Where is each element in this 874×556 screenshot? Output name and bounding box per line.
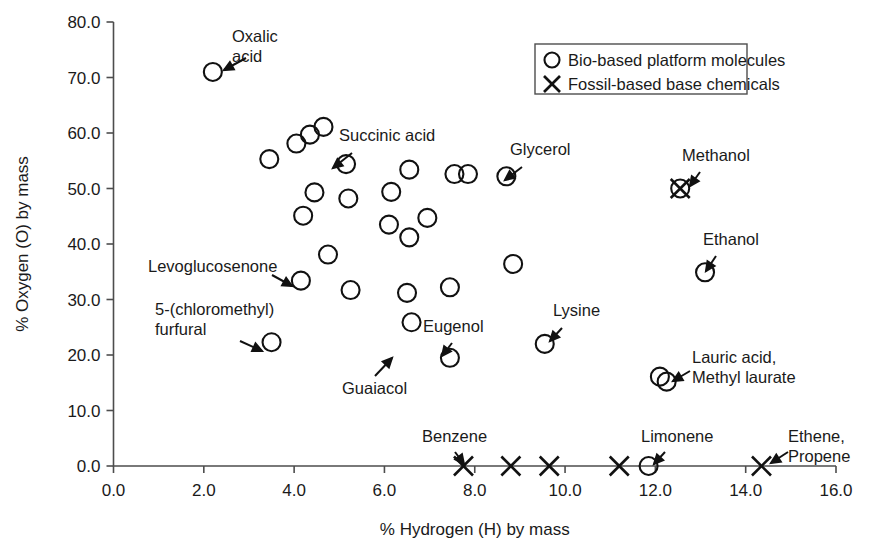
plot-canvas: 0.010.020.030.040.050.060.070.080.00.02.…	[0, 0, 874, 556]
annotation-label-succinic-acid: Succinic acid	[339, 126, 435, 144]
data-point-0-6	[294, 207, 312, 225]
annotation-line: Lauric acid,	[692, 348, 776, 366]
annotation-label-lauric-acid: Lauric acid,Methyl laurate	[692, 348, 796, 386]
annotation-label-lysine: Lysine	[553, 301, 600, 319]
annotation-label-methanol: Methanol	[682, 146, 750, 164]
x-tick-label-6: 12.0	[639, 481, 672, 500]
x-tick-label-5: 10.0	[549, 481, 582, 500]
annotation-line: Lysine	[553, 301, 600, 319]
legend-label-1: Fossil-based base chemicals	[568, 75, 780, 93]
annotation-label-benzene: Benzene	[422, 427, 487, 445]
data-point-0-1	[260, 150, 278, 168]
legend-item-1[interactable]: Fossil-based base chemicals	[544, 75, 780, 93]
annotation-oxalic-acid: Oxalicacid	[224, 27, 278, 70]
y-tick-label-0: 0.0	[77, 457, 101, 476]
annotation-label-levoglucosenone: Levoglucosenone	[148, 257, 277, 275]
annotation-label-chloromethyl-furfural: 5-(chloromethyl)furfural	[155, 300, 274, 338]
data-point-methanol	[671, 179, 690, 198]
data-point-0-15	[459, 165, 477, 183]
annotation-arrowhead-levoglucosenone	[282, 278, 292, 286]
data-point-0-8	[339, 189, 357, 207]
x-tick-label-1: 2.0	[192, 481, 216, 500]
x-tick-label-4: 8.0	[463, 481, 487, 500]
annotation-line: Propene	[788, 447, 850, 465]
annotation-label-oxalic-acid: Oxalicacid	[232, 27, 278, 65]
annotation-label-glycerol: Glycerol	[510, 140, 571, 158]
data-point-0-19	[342, 281, 360, 299]
x-tick-label-3: 6.0	[373, 481, 397, 500]
annotation-lauric-acid: Lauric acid,Methyl laurate	[673, 348, 796, 386]
y-axis-title: % Oxygen (O) by mass	[13, 156, 32, 332]
annotation-label-ethanol: Ethanol	[703, 230, 759, 248]
data-point-0-4	[314, 118, 332, 136]
annotation-arrowhead-ethene-propene	[771, 455, 781, 463]
chart-legend: Bio-based platform moleculesFossil-based…	[535, 44, 785, 94]
data-point-0-11	[380, 216, 398, 234]
annotation-line: Ethene,	[788, 427, 845, 445]
y-tick-label-4: 40.0	[67, 235, 100, 254]
annotation-label-eugenol: Eugenol	[423, 317, 484, 335]
annotation-methanol: Methanol	[682, 146, 750, 186]
annotation-line: furfural	[155, 320, 206, 338]
x-tick-label-0: 0.0	[102, 481, 126, 500]
annotation-ethanol: Ethanol	[703, 230, 759, 271]
annotation-line: Ethanol	[703, 230, 759, 248]
annotation-lysine: Lysine	[550, 301, 600, 341]
scatter-chart-figure: 0.010.020.030.040.050.060.070.080.00.02.…	[0, 0, 874, 556]
data-point-0-7	[305, 183, 323, 201]
legend-label-0: Bio-based platform molecules	[568, 51, 785, 69]
data-point-levoglucosenone	[292, 272, 310, 290]
annotation-line: Methyl laurate	[692, 368, 796, 386]
y-tick-label-7: 70.0	[67, 69, 100, 88]
annotation-line: Benzene	[422, 427, 487, 445]
annotation-succinic-acid: Succinic acid	[333, 126, 435, 168]
annotation-label-limonene: Limonene	[641, 427, 713, 445]
annotation-arrowhead-methanol	[690, 176, 699, 186]
data-point-0-2	[287, 135, 305, 153]
data-point-0-12	[400, 228, 418, 246]
annotation-label-ethene-propene: Ethene,Propene	[788, 427, 850, 465]
annotation-label-guaiacol: Guaiacol	[342, 379, 407, 397]
data-point-0-17	[319, 246, 337, 264]
annotation-line: Levoglucosenone	[148, 257, 277, 275]
y-tick-label-2: 20.0	[67, 346, 100, 365]
data-point-0-24	[504, 255, 522, 273]
x-tick-label-8: 16.0	[819, 481, 852, 500]
annotation-levoglucosenone: Levoglucosenone	[148, 257, 292, 286]
annotation-ethene-propene: Ethene,Propene	[771, 427, 850, 465]
data-point-0-3	[301, 126, 319, 144]
data-point-0-13	[418, 209, 436, 227]
annotation-line: Eugenol	[423, 317, 484, 335]
y-tick-label-1: 10.0	[67, 402, 100, 421]
annotation-line: Limonene	[641, 427, 713, 445]
annotation-line: Guaiacol	[342, 379, 407, 397]
legend-item-0[interactable]: Bio-based platform molecules	[545, 51, 786, 69]
annotation-chloromethyl-furfural: 5-(chloromethyl)furfural	[155, 300, 274, 351]
y-tick-label-5: 50.0	[67, 180, 100, 199]
annotation-line: Oxalic	[232, 27, 278, 45]
y-tick-label-3: 30.0	[67, 291, 100, 310]
annotation-guaiacol: Guaiacol	[342, 358, 407, 397]
data-point-0-23	[441, 278, 459, 296]
x-axis-title: % Hydrogen (H) by mass	[380, 520, 570, 539]
y-tick-label-6: 60.0	[67, 124, 100, 143]
annotation-line: Succinic acid	[339, 126, 435, 144]
annotation-line: 5-(chloromethyl)	[155, 300, 274, 318]
data-point-oxalic-acid	[204, 63, 222, 81]
x-tick-label-2: 4.0	[282, 481, 306, 500]
data-point-guaiacol	[403, 313, 421, 331]
data-point-5-chloromethyl-furfural	[263, 333, 281, 351]
annotation-line: Methanol	[682, 146, 750, 164]
annotation-line: Glycerol	[510, 140, 571, 158]
annotation-arrowhead-chloromethyl-furfural	[252, 343, 262, 351]
y-tick-label-8: 80.0	[67, 13, 100, 32]
data-points	[204, 63, 771, 476]
data-point-0-20	[398, 284, 416, 302]
x-tick-label-7: 14.0	[729, 481, 762, 500]
data-point-0-10	[400, 161, 418, 179]
data-point-0-9	[382, 183, 400, 201]
